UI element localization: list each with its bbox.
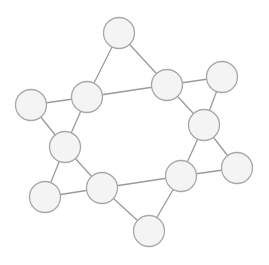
node-n11: [222, 153, 253, 184]
node-n12: [134, 216, 165, 247]
node-n4: [152, 70, 183, 101]
node-n2: [72, 82, 103, 113]
node-n7: [50, 132, 81, 163]
node-n1: [104, 18, 135, 49]
node-n8: [30, 182, 61, 213]
node-n6: [189, 110, 220, 141]
node-n3: [16, 90, 47, 121]
nodes-layer: [16, 18, 253, 247]
graph-canvas: [0, 0, 269, 265]
node-n5: [207, 62, 238, 93]
node-n10: [166, 161, 197, 192]
node-n9: [87, 173, 118, 204]
